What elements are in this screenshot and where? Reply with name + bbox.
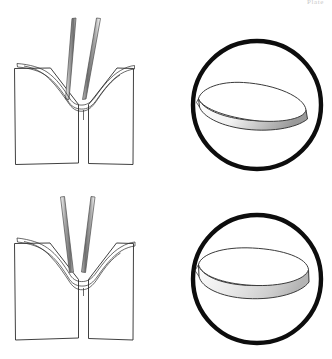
lens-sheet-lower-top-panel (18, 67, 135, 109)
forceps-blade-left-bottom-panel (61, 197, 74, 273)
lens-sheet-upper-bottom-panel (17, 238, 135, 282)
lens-sheet-upper-top-panel (17, 64, 135, 106)
panel-top-right (193, 41, 321, 169)
forceps-blade-right-bottom-panel (82, 197, 96, 273)
forceps-blade-right-top-panel (83, 18, 101, 100)
lens-inner-contour-top-panel (24, 66, 120, 111)
figure-root: Plate (0, 0, 332, 359)
forceps-blade-left-top-panel (66, 18, 77, 100)
panel-bottom-left (15, 197, 136, 341)
lens-end-left-bottom-panel (17, 238, 18, 242)
lens-end-left-top-panel (17, 64, 18, 68)
panel-bottom-right (193, 215, 321, 343)
lens-sheet-mid-bottom-panel (18, 242, 136, 286)
panel-top-left (15, 18, 135, 165)
illustration-canvas (0, 0, 332, 359)
block-right-bottom-panel (89, 243, 134, 340)
